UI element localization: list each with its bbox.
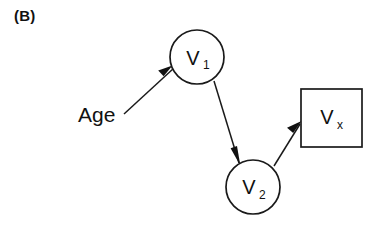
node-v1: V 1 <box>170 30 224 84</box>
edge-v1-to-v2-arrowhead <box>231 146 241 166</box>
node-v2-label: V <box>242 176 256 198</box>
diagram-canvas: (B) Age V 1 V 2 <box>0 0 373 228</box>
node-vx-subscript: x <box>337 118 343 132</box>
edge-age-to-v1-line <box>124 68 174 114</box>
node-vx: V x <box>301 89 362 147</box>
edge-v2-to-vx <box>274 121 302 166</box>
node-age-label: Age <box>78 103 115 126</box>
edge-age-to-v1 <box>124 66 174 115</box>
node-v1-label: V <box>186 47 200 69</box>
node-v2-subscript: 2 <box>259 188 266 202</box>
edge-v2-to-vx-arrowhead <box>287 121 302 133</box>
edge-v1-to-v2 <box>214 81 240 166</box>
node-v2: V 2 <box>226 160 280 214</box>
node-v1-subscript: 1 <box>203 58 210 72</box>
edge-v2-to-vx-line <box>274 124 300 166</box>
node-vx-label: V <box>320 106 334 128</box>
path-diagram-graphic: Age V 1 V 2 V x <box>0 0 373 228</box>
node-age: Age <box>78 103 115 126</box>
